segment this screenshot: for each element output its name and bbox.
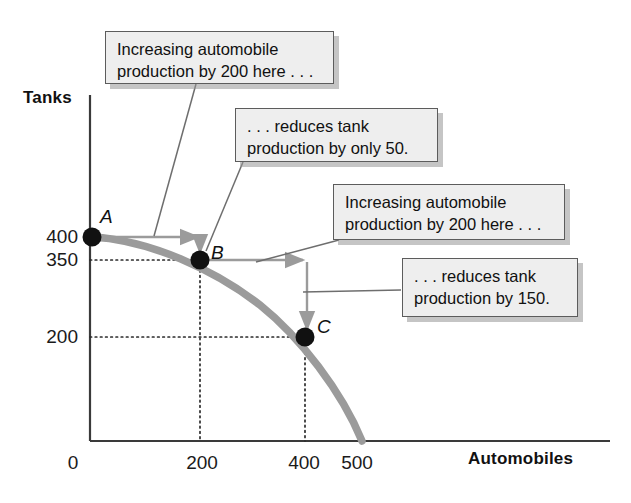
x-tick-500: 500 bbox=[327, 452, 387, 474]
y-tick-400: 400 bbox=[14, 226, 78, 248]
data-point-b bbox=[191, 251, 210, 270]
connector-1 bbox=[154, 84, 196, 236]
callout-increase-2: Increasing automobile production by 200 … bbox=[333, 184, 565, 240]
y-tick-350: 350 bbox=[14, 249, 78, 271]
x-axis-title: Automobiles bbox=[468, 449, 573, 469]
x-tick-0: 0 bbox=[53, 452, 93, 474]
ppf-figure: Tanks Automobiles 400 350 200 0 200 400 … bbox=[0, 0, 631, 503]
data-point-a bbox=[83, 228, 102, 247]
point-label-a: A bbox=[100, 206, 113, 228]
y-axis-title: Tanks bbox=[23, 88, 72, 108]
callout-reduce-1: . . . reduces tank production by only 50… bbox=[235, 108, 438, 162]
connector-3 bbox=[256, 240, 339, 262]
point-label-c: C bbox=[317, 316, 331, 338]
data-points bbox=[83, 228, 315, 347]
y-tick-200: 200 bbox=[14, 326, 78, 348]
arrow-b-to-c bbox=[205, 260, 307, 329]
ppf-curve bbox=[92, 237, 362, 441]
x-tick-400: 400 bbox=[274, 452, 334, 474]
connector-4 bbox=[303, 290, 401, 292]
callout-increase-1: Increasing automobile production by 200 … bbox=[105, 31, 334, 84]
callout-reduce-2: . . . reduces tank production by 150. bbox=[402, 258, 578, 317]
x-tick-200: 200 bbox=[172, 452, 232, 474]
guide-lines bbox=[90, 260, 305, 441]
connector-2 bbox=[206, 162, 243, 251]
point-label-b: B bbox=[211, 242, 224, 264]
data-point-c bbox=[296, 328, 315, 347]
